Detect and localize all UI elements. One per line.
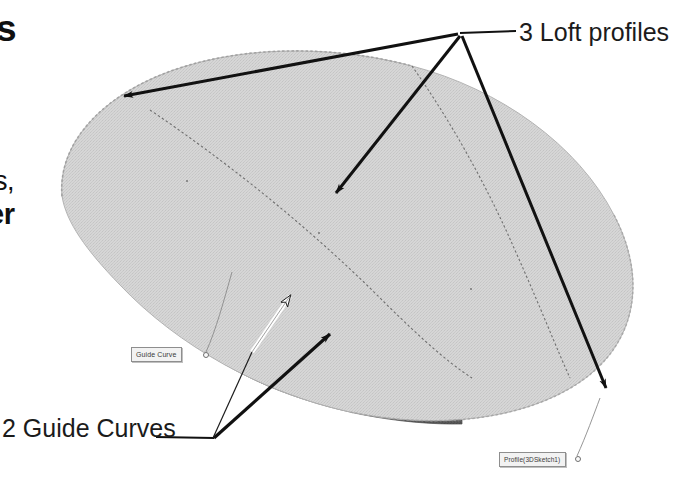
- cad-callout-guide-curve[interactable]: Guide Curve: [131, 347, 182, 362]
- diagram-canvas: s s, er 3 Loft profiles 2 Guide Curves G…: [0, 0, 681, 494]
- clipped-text-fragment-top: s: [0, 8, 16, 50]
- clipped-text-fragment-bottom: er: [0, 198, 14, 231]
- clipped-text-fragment-middle: s,: [0, 166, 14, 197]
- cad-callout-profile-pin-icon: [575, 456, 581, 462]
- cad-callout-guide-curve-pin-icon: [203, 352, 209, 358]
- loft-profiles-label: 3 Loft profiles: [519, 18, 669, 47]
- solid-top-surface: [62, 51, 633, 421]
- guide-curves-label: 2 Guide Curves: [2, 414, 176, 443]
- cad-callout-profile-3dsketch1[interactable]: Profile(3DSketch1): [499, 452, 566, 467]
- pointer-profile: [577, 398, 600, 456]
- loft-leader-connector: [460, 31, 516, 33]
